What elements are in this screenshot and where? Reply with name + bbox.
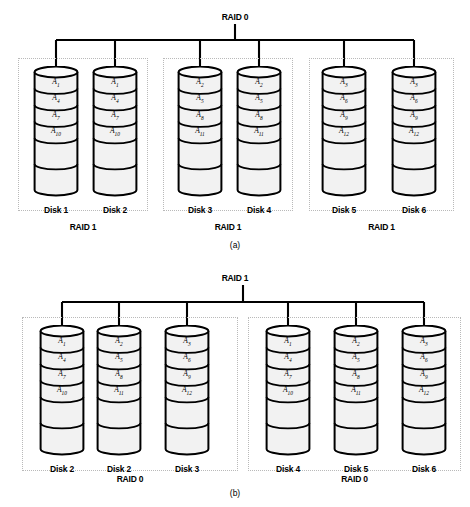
panel-a-root-label: RAID 0	[0, 12, 470, 22]
disk-cylinder-svg	[333, 325, 379, 461]
panel-a-disk-5[interactable]: A3A6A9A12Disk 5	[321, 66, 367, 202]
disk-cylinder: A3A6A9A12	[321, 66, 367, 202]
panel-b-disk-5[interactable]: A2A5A8A11Disk 5	[333, 325, 379, 461]
disk-name-label: Disk 3	[164, 464, 210, 474]
panel-b-disk-4[interactable]: A1A4A7A10Disk 4	[265, 325, 311, 461]
panel-b-disk-6[interactable]: A3A6A9A12Disk 6	[401, 325, 447, 461]
disk-cylinder: A3A6A9A12	[391, 66, 437, 202]
panel-a-group-label-1: RAID 1	[18, 222, 148, 232]
panel-b-disk-3[interactable]: A3A6A9A12Disk 3	[164, 325, 210, 461]
disk-cylinder: A3A6A9A12	[401, 325, 447, 461]
disk-cylinder-svg	[39, 325, 85, 461]
disk-cylinder: A2A5A8A11	[96, 325, 142, 461]
disk-cylinder-svg	[96, 325, 142, 461]
disk-name-label: Disk 1	[33, 205, 79, 215]
disk-cylinder-svg	[164, 325, 210, 461]
disk-cylinder-svg	[92, 66, 138, 202]
raid-panel-a: RAID 0 RAID 1 RAID 1 RAID 1 A1A4A7A10Dis…	[0, 0, 470, 260]
panel-b-caption: (b)	[0, 488, 470, 498]
panel-a-disk-1[interactable]: A1A4A7A10Disk 1	[33, 66, 79, 202]
panel-b-group-label-1: RAID 0	[22, 474, 238, 484]
disk-cylinder-svg	[391, 66, 437, 202]
disk-cylinder: A1A4A7A10	[33, 66, 79, 202]
raid-panel-b: RAID 1 RAID 0 RAID 0 A1A4A7A10Disk 2 A2A…	[0, 260, 470, 507]
panel-a-disk-6[interactable]: A3A6A9A12Disk 6	[391, 66, 437, 202]
disk-cylinder-svg	[177, 66, 223, 202]
disk-name-label: Disk 2	[96, 464, 142, 474]
panel-a-disk-3[interactable]: A2A5A8A11Disk 3	[177, 66, 223, 202]
panel-a-disk-4[interactable]: A2A5A8A11Disk 4	[236, 66, 282, 202]
disk-name-label: Disk 6	[391, 205, 437, 215]
disk-cylinder: A2A5A8A11	[333, 325, 379, 461]
panel-b-group-label-2: RAID 0	[248, 474, 461, 484]
disk-cylinder-svg	[321, 66, 367, 202]
disk-cylinder: A1A4A7A10	[92, 66, 138, 202]
disk-cylinder-svg	[265, 325, 311, 461]
disk-name-label: Disk 4	[265, 464, 311, 474]
disk-cylinder: A2A5A8A11	[236, 66, 282, 202]
disk-name-label: Disk 3	[177, 205, 223, 215]
disk-name-label: Disk 5	[321, 205, 367, 215]
panel-b-disk-2[interactable]: A2A5A8A11Disk 2	[96, 325, 142, 461]
disk-cylinder: A3A6A9A12	[164, 325, 210, 461]
disk-name-label: Disk 2	[92, 205, 138, 215]
disk-name-label: Disk 4	[236, 205, 282, 215]
disk-cylinder-svg	[236, 66, 282, 202]
panel-a-group-label-3: RAID 1	[309, 222, 454, 232]
panel-a-disk-2[interactable]: A1A4A7A10Disk 2	[92, 66, 138, 202]
disk-cylinder: A1A4A7A10	[265, 325, 311, 461]
disk-cylinder-svg	[401, 325, 447, 461]
panel-b-root-label: RAID 1	[0, 273, 470, 283]
disk-cylinder: A2A5A8A11	[177, 66, 223, 202]
panel-a-caption: (a)	[0, 240, 470, 250]
disk-cylinder: A1A4A7A10	[39, 325, 85, 461]
disk-name-label: Disk 6	[401, 464, 447, 474]
disk-cylinder-svg	[33, 66, 79, 202]
panel-b-disk-1[interactable]: A1A4A7A10Disk 2	[39, 325, 85, 461]
disk-name-label: Disk 5	[333, 464, 379, 474]
disk-name-label: Disk 2	[39, 464, 85, 474]
panel-a-group-label-2: RAID 1	[163, 222, 293, 232]
